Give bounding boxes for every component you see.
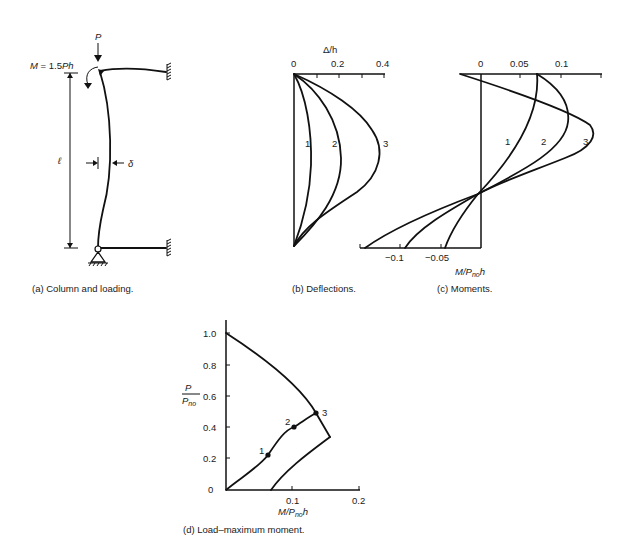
caption-d: (d) Load–maximum moment. <box>183 524 304 535</box>
moment-label: M = 1.5Ph <box>30 60 74 71</box>
panel-d-load-maximum-moment: 0 0.2 0.4 0.6 0.8 1.0 P Pno 0.1 0.2 M/Pn… <box>182 320 365 535</box>
y-tick-d-5: 1.0 <box>203 328 216 339</box>
interaction-envelope <box>226 333 330 437</box>
dim-arrow-top-icon <box>67 73 73 78</box>
y-tick-d-3: 0.6 <box>203 391 216 402</box>
x-tick-d-1: 0.1 <box>286 495 299 506</box>
panel-c-moments: 0 0.05 0.1 −0.1 −0.05 1 2 3 M/Pnoh (c) M… <box>360 58 602 294</box>
y-title-d-den: Pno <box>182 395 196 407</box>
x-tick-d-2: 0.2 <box>352 495 365 506</box>
y-tick-d-0: 0 <box>208 484 213 495</box>
load-label: P <box>95 31 102 42</box>
curve-label-c-2: 2 <box>541 136 546 147</box>
tick-label-b-0: 0 <box>291 58 296 69</box>
point-label-2: 2 <box>285 416 290 427</box>
curve-label-b-2: 2 <box>332 138 337 149</box>
caption-b: (b) Deflections. <box>292 283 356 294</box>
y-tick-d-2: 0.4 <box>203 422 216 433</box>
caption-a: (a) Column and loading. <box>32 283 133 294</box>
point-2-marker <box>291 424 296 429</box>
point-label-3: 3 <box>322 407 327 418</box>
curve-label-c-3: 3 <box>583 136 588 147</box>
point-1-marker <box>265 452 270 457</box>
moment-arrow-icon <box>87 67 98 85</box>
panel-a-column-loading: P M = 1.5Ph ℓ <box>30 31 171 294</box>
point-3-marker <box>313 410 318 415</box>
curve-label-c-1: 1 <box>505 136 510 147</box>
y-tick-d-1: 0.2 <box>203 453 216 464</box>
hatch-bottom <box>167 239 171 256</box>
axis-title-b: Δ/h <box>323 44 337 55</box>
pin-support-icon <box>91 252 105 262</box>
y-title-d-num: P <box>185 382 192 393</box>
deflection-curve-1 <box>294 74 311 246</box>
caption-c: (c) Moments. <box>437 283 492 294</box>
tick-label-c-top-2: 0.1 <box>555 58 568 69</box>
dim-arrow-bottom-icon <box>67 243 73 248</box>
delta-arrowhead-left-icon <box>93 160 98 166</box>
point-label-1: 1 <box>259 445 264 456</box>
moment-curve-1 <box>445 74 537 248</box>
curve-label-b-1: 1 <box>305 138 310 149</box>
tick-label-c-top-1: 0.05 <box>510 58 529 69</box>
loading-path <box>226 413 316 490</box>
curve-label-b-3: 3 <box>383 138 388 149</box>
moment-curve-3 <box>365 74 593 248</box>
unloading-branch <box>271 437 330 490</box>
top-beam <box>100 68 166 72</box>
axis-title-c: M/Pnoh <box>455 266 485 278</box>
tick-label-c-top-0: 0 <box>478 58 483 69</box>
deflection-label: δ <box>128 158 134 169</box>
moment-arrowhead-icon <box>84 83 92 89</box>
tick-label-c-bot-1: −0.05 <box>425 252 449 263</box>
hatch-top <box>167 63 171 80</box>
length-label: ℓ <box>57 155 62 166</box>
deflection-curve-3 <box>294 74 379 246</box>
column-member <box>98 72 110 248</box>
figure-canvas: P M = 1.5Ph ℓ <box>0 0 624 550</box>
tick-label-c-bot-0: −0.1 <box>385 252 404 263</box>
y-tick-d-4: 0.8 <box>203 360 216 371</box>
delta-arrowhead-right-icon <box>112 160 117 166</box>
panel-b-deflections: Δ/h 0 0.2 0.4 1 2 3 (b) Deflections. <box>291 44 389 294</box>
tick-label-b-2: 0.4 <box>376 58 389 69</box>
load-arrow-icon <box>94 55 102 62</box>
moment-curve-2 <box>405 74 568 248</box>
x-title-d: M/Pnoh <box>278 506 308 518</box>
tick-label-b-1: 0.2 <box>331 58 344 69</box>
